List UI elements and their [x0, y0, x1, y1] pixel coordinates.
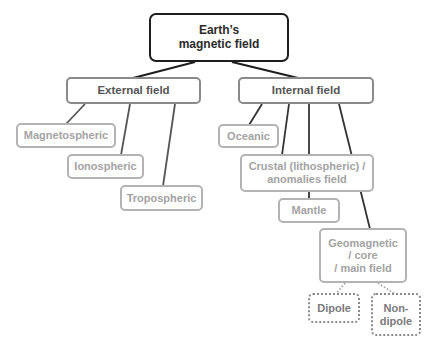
node-earths-magnetic-field: Earth’s magnetic field	[149, 13, 289, 62]
node-label-line: magnetic field	[179, 38, 260, 52]
node-mantle: Mantle	[278, 198, 340, 223]
node-ionospheric: Ionospheric	[67, 154, 144, 179]
node-label-line: / core	[348, 249, 377, 262]
node-internal-field: Internal field	[238, 77, 374, 104]
node-oceanic: Oceanic	[218, 124, 279, 148]
node-label-line: Geomagnetic	[328, 237, 398, 250]
node-label: Ionospheric	[74, 160, 136, 173]
node-label-line: / main field	[334, 262, 391, 275]
node-geomagnetic-core-main-field: Geomagnetic / core / main field	[319, 228, 407, 283]
node-label-line: anomalies field	[267, 173, 346, 186]
node-external-field: External field	[66, 77, 201, 104]
node-label: Tropospheric	[127, 192, 197, 205]
node-label: Oceanic	[227, 130, 270, 143]
node-label: Mantle	[292, 204, 327, 217]
node-label: External field	[97, 84, 169, 97]
node-label: Dipole	[317, 302, 351, 315]
node-label: Magnetospheric	[24, 129, 108, 142]
node-crustal-field: Crustal (lithospheric) / anomalies field	[240, 154, 374, 192]
node-magnetospheric: Magnetospheric	[16, 123, 116, 148]
node-label-line: Earth’s	[199, 24, 239, 38]
node-dipole: Dipole	[308, 293, 360, 323]
node-label-line: Non-	[383, 302, 408, 315]
node-label-line: dipole	[380, 315, 412, 328]
node-tropospheric: Tropospheric	[120, 185, 203, 211]
node-label: Internal field	[272, 84, 340, 97]
node-non-dipole: Non- dipole	[371, 293, 421, 336]
node-label-line: Crustal (lithospheric) /	[249, 160, 366, 173]
